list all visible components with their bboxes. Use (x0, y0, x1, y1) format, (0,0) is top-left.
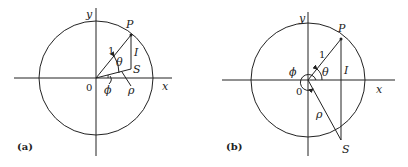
figure: y x 0 P S I 1 θ ϕ ρ (a) y x 0 P S I 1 θ … (0, 0, 408, 167)
radius-label: 1 (319, 49, 325, 60)
segment-0S (96, 69, 131, 78)
point-S-label: S (342, 143, 350, 156)
origin-label: 0 (86, 82, 92, 93)
y-axis-label: y (298, 12, 306, 25)
point-S-label: S (133, 63, 141, 76)
rho-label: ρ (127, 84, 135, 97)
theta-label: θ (116, 56, 123, 69)
panel-b: y x 0 P S I 1 θ ϕ ρ (b) (222, 12, 395, 156)
segment-I-label: I (343, 64, 349, 77)
point-P-dot (340, 38, 343, 41)
theta-label: θ (322, 66, 329, 79)
point-P-label: P (337, 22, 346, 35)
origin-label: 0 (296, 86, 302, 97)
phi-label: ϕ (104, 84, 112, 97)
point-P-label: P (125, 18, 134, 31)
panel-b-caption: (b) (226, 141, 242, 152)
segment-I-label: I (133, 46, 139, 59)
panel-a-caption: (a) (17, 141, 33, 152)
phi-label: ϕ (289, 66, 297, 79)
x-axis-label: x (162, 80, 169, 93)
panel-a: y x 0 P S I 1 θ ϕ ρ (a) (14, 8, 172, 156)
rho-label: ρ (315, 108, 323, 121)
point-P-dot (130, 34, 133, 37)
radius-label: 1 (108, 45, 114, 56)
x-axis-label: x (376, 83, 383, 96)
y-axis-label: y (85, 8, 93, 21)
phi-leader (109, 76, 111, 84)
segment-0P (96, 35, 131, 78)
